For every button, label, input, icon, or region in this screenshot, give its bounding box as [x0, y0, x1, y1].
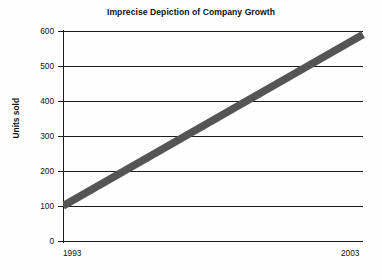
y-tick-label-300: 300: [26, 131, 54, 141]
gridline-100: [63, 206, 363, 207]
gridline-500: [63, 66, 363, 67]
gridline-200: [63, 171, 363, 172]
y-tick-600: 600: [22, 26, 54, 36]
gridline-600: [63, 31, 363, 32]
y-tick-label-600: 600: [26, 26, 54, 36]
y-tick-label-100: 100: [26, 201, 54, 211]
y-tick-100: 100: [22, 201, 54, 211]
gridline-300: [63, 136, 363, 137]
gridline-0: [63, 241, 363, 242]
y-tick-200: 200: [22, 166, 54, 176]
chart-title: Imprecise Depiction of Company Growth: [0, 7, 382, 17]
y-tick-500: 500: [22, 61, 54, 71]
y-tick-label-500: 500: [26, 61, 54, 71]
y-tick-label-0: 0: [26, 236, 54, 246]
x-tick-label-end: 2003: [341, 248, 359, 258]
plot-area: [63, 31, 363, 242]
y-tick-label-200: 200: [26, 166, 54, 176]
y-tick-400: 400: [22, 96, 54, 106]
chart-container: Imprecise Depiction of Company Growth Un…: [0, 0, 382, 279]
y-tick-label-400: 400: [26, 96, 54, 106]
y-tick-0: 0: [22, 236, 54, 246]
x-tick-label-start: 1993: [63, 248, 81, 258]
y-tick-300: 300: [22, 131, 54, 141]
gridline-400: [63, 101, 363, 102]
y-axis-title-label: Units sold: [11, 98, 21, 138]
